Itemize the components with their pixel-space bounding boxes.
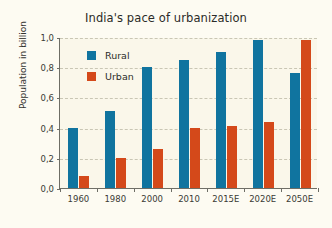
bar-rural-2015E (216, 52, 226, 188)
y-tick-label: 0,2 (40, 154, 54, 164)
bar-urban-2015E (227, 126, 237, 188)
y-tick-label: 0,6 (40, 93, 54, 103)
x-tick-label-2015E: 2015E (212, 194, 239, 204)
bar-urban-1960 (79, 176, 89, 188)
bar-rural-1980 (105, 111, 115, 188)
x-tick-mark (171, 188, 172, 192)
x-tick-mark (97, 188, 98, 192)
legend-swatch-urban-icon (87, 72, 96, 81)
y-tick-label: 0,4 (40, 124, 54, 134)
x-tick-label-2010: 2010 (178, 194, 200, 204)
legend-item-urban: Urban (87, 71, 134, 81)
x-tick-mark (134, 188, 135, 192)
y-tick-label: 0,8 (40, 63, 54, 73)
bar-group (214, 38, 239, 188)
bar-group (140, 38, 165, 188)
y-tick-label: 1,0 (40, 33, 54, 43)
x-tick-label-1960: 1960 (68, 194, 90, 204)
bar-group (251, 38, 276, 188)
bar-rural-1960 (68, 128, 78, 188)
y-tick-label: 0,0 (40, 184, 54, 194)
x-tick-label-2020E: 2020E (249, 194, 276, 204)
bar-urban-2000 (153, 149, 163, 188)
bar-urban-1980 (116, 158, 126, 188)
bar-group (288, 38, 313, 188)
bar-rural-2020E (253, 40, 263, 188)
chart-title: India's pace of urbanization (0, 11, 332, 25)
chart-legend: Rural Urban (87, 50, 134, 92)
x-tick-mark (281, 188, 282, 192)
x-tick-mark (244, 188, 245, 192)
x-tick-mark (318, 188, 319, 192)
bar-urban-2050E (301, 40, 311, 188)
plot-area: 0,00,20,40,60,81,0 19601980200020102015E… (59, 38, 317, 189)
x-tick-mark (207, 188, 208, 192)
legend-swatch-rural-icon (87, 51, 96, 60)
bar-rural-2050E (290, 73, 300, 188)
x-tick-label-1980: 1980 (104, 194, 126, 204)
legend-item-rural: Rural (87, 50, 134, 60)
x-tick-label-2000: 2000 (141, 194, 163, 204)
legend-label-urban: Urban (105, 71, 134, 82)
bar-urban-2010 (190, 128, 200, 188)
legend-label-rural: Rural (105, 50, 130, 61)
x-tick-mark (60, 188, 61, 192)
bar-urban-2020E (264, 122, 274, 188)
y-axis-title: Population in billion (18, 0, 28, 135)
bar-group (177, 38, 202, 188)
chart-figure: India's pace of urbanization Population … (0, 0, 332, 228)
bar-rural-2010 (179, 60, 189, 188)
x-tick-label-2050E: 2050E (286, 194, 313, 204)
bar-rural-2000 (142, 67, 152, 188)
